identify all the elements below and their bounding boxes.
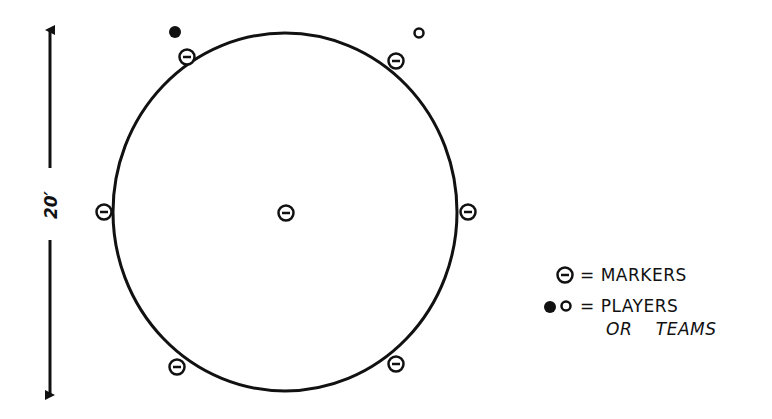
player-filled-icon [169,26,181,38]
marker-icon [389,357,404,372]
marker-icon [170,360,185,375]
legend: = MARKERS = PLAYERS OR TEAMS [544,265,717,339]
marker-icon [279,206,294,221]
legend-player-filled-icon [544,301,556,313]
marker-icon [97,205,112,220]
legend-markers-label: = MARKERS [580,265,687,285]
marker-icon [461,205,476,220]
legend-players-label: = PLAYERS [580,296,678,316]
marker-icon [389,54,404,69]
legend-marker-icon [558,268,573,283]
dimension-indicator: 20′ [41,30,61,395]
player-open-icon [415,29,424,38]
legend-player-open-icon [562,302,571,311]
diagram-canvas: 20′ = MARKERS = PLAYERS OR TEAMS [0,0,772,419]
marker-icon [180,50,195,65]
legend-players-label-line2: OR TEAMS [606,319,717,339]
dimension-label: 20′ [41,190,61,219]
